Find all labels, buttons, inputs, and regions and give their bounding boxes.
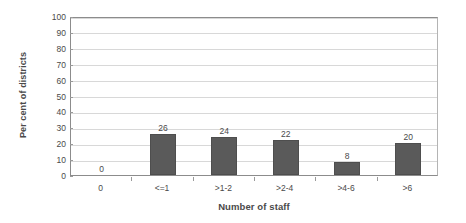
y-axis-tick-label: 0 [26,172,66,180]
y-axis-tick-label: 60 [26,77,66,85]
y-axis-tick-mark [70,128,73,129]
y-axis-tick-mark [70,144,73,145]
x-axis-tick-label: >2-4 [255,183,315,193]
x-axis-tick-label: >6 [377,183,437,193]
x-axis-tick-mark [315,177,316,181]
y-axis-tick-label: 100 [26,13,66,21]
bar-series: 0262422820 [71,18,437,175]
bar [150,134,176,175]
y-axis-tick-label: 70 [26,61,66,69]
bar-value-label: 24 [204,127,244,136]
y-axis-tick-mark [70,33,73,34]
bar-value-label: 26 [143,124,183,133]
y-axis-tick-mark [70,49,73,50]
bar [395,143,421,175]
y-axis-tick-label: 30 [26,124,66,132]
bar-value-label: 20 [388,133,428,142]
x-axis-tick-label: 0 [71,183,131,193]
y-axis-tick-label: 20 [26,140,66,148]
y-axis-tick-mark [70,81,73,82]
x-axis-title: Number of staff [70,201,438,212]
bar-value-label: 0 [82,165,122,174]
x-axis-tick-mark [377,177,378,181]
bar-value-label: 22 [266,130,306,139]
y-axis-tick-label: 10 [26,156,66,164]
bar-chart: Per cent of districts 100908070605040302… [0,0,466,223]
y-axis-tick-mark [70,176,73,177]
bar [273,140,299,175]
x-axis-tick-mark [193,177,194,181]
y-axis-tick-mark [70,160,73,161]
x-axis-tick-label: <=1 [132,183,192,193]
y-axis-tick-label: 50 [26,93,66,101]
x-axis-tick-mark [131,177,132,181]
plot-area: 0262422820 [70,17,438,176]
y-axis-tick-mark [70,112,73,113]
y-axis-tick-mark [70,65,73,66]
x-axis-tick-label: >1-2 [193,183,253,193]
y-axis-tick-label: 40 [26,108,66,116]
x-axis-tick-label: >4-6 [316,183,376,193]
y-axis-tick-mark [70,97,73,98]
y-axis-tick-label: 80 [26,45,66,53]
y-axis-tick-mark [70,17,73,18]
bar [211,137,237,175]
y-axis-tick-labels: 1009080706050403020100 [24,17,66,176]
bar-value-label: 8 [327,152,367,161]
x-axis-tick-mark [254,177,255,181]
y-axis-tick-label: 90 [26,29,66,37]
bar [334,162,360,175]
